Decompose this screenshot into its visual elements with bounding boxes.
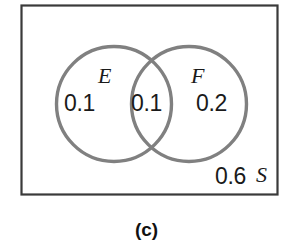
universal-set-label: S (256, 164, 267, 186)
venn-diagram-graphic (0, 0, 293, 252)
probability-outside: 0.6 (215, 165, 246, 188)
probability-e-only: 0.1 (64, 92, 95, 115)
figure-caption: (c) (0, 219, 293, 241)
venn-diagram-figure: E F 0.1 0.1 0.2 0.6 S (c) (0, 0, 293, 252)
set-e-label: E (98, 65, 111, 87)
set-f-label: F (191, 65, 204, 87)
probability-intersection: 0.1 (131, 92, 162, 115)
probability-f-only: 0.2 (196, 92, 227, 115)
